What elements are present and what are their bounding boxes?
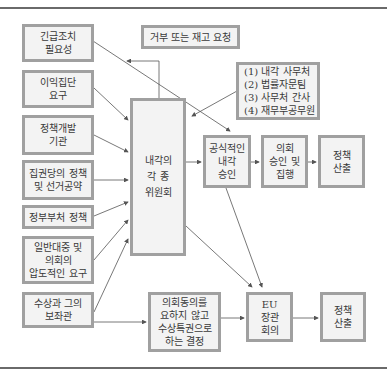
parliament-approval-box: 의회 승인 및 집행 [261,135,308,188]
input-prime-minister: 수상과 그의 보좌관 [22,292,94,328]
input-public-demand: 일반대중 및 의회의 압도적인 요구 [22,236,94,284]
input-policy-development: 정책개발 기관 [22,115,94,155]
policy-output-bottom-box: 정책 산출 [320,292,366,342]
cabinet-committees-box: 내각의 각 종 위원회 [130,98,186,256]
policy-output-top-box: 정책 산출 [318,135,365,188]
eu-council-box: EU 장관 회의 [246,292,293,342]
formal-cabinet-approval-box: 공식적인 내각 승인 [203,135,251,188]
input-urgent-measures: 긴급조치 필요성 [22,24,94,62]
support-staff-box: (1) 내각 사무처 (2) 법률자문팀 (3) 사무처 간사 (4) 재무부공… [236,62,320,120]
reject-or-reconsider-box: 거부 또는 재고 요청 [141,25,240,49]
input-interest-groups: 이익집단 요구 [22,70,94,108]
input-ruling-party: 집권당의 정책 및 선거공약 [22,160,94,200]
input-ministry-policy: 정부부처 정책 [22,205,94,229]
prerogative-decision-box: 의회동의를 요하지 않고 수상특권으로 하는 결정 [148,292,221,352]
